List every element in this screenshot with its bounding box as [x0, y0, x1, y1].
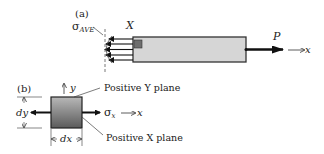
sigma-ave-leader [93, 27, 103, 35]
positive-x-plane-label: Positive X plane [106, 132, 183, 143]
bar-member [133, 37, 246, 62]
dx-label: dx [60, 133, 72, 144]
positive-y-plane-leader [74, 88, 100, 97]
y-axis-label: y [69, 82, 76, 93]
figure-a-label: (a) [75, 8, 89, 19]
sigma-x-label: σx [104, 106, 116, 120]
element-x-label: X [125, 19, 135, 32]
stress-element-x [134, 40, 142, 48]
figure-b: (b) y Positive Y plane Positive X plane … [16, 82, 183, 146]
positive-x-plane-leader [82, 117, 103, 135]
x-axis-label-b: x [137, 107, 143, 118]
x-axis-label-a: x [305, 44, 311, 55]
sigma-ave-symbol: σAVE [72, 20, 94, 34]
average-stress-arrows [105, 39, 133, 60]
figure-b-label: (b) [17, 83, 31, 94]
figure-a: (a) σAVE X P x [72, 8, 311, 72]
dy-label: dy [16, 107, 28, 118]
force-p-label: P [272, 30, 281, 43]
stress-diagram: (a) σAVE X P x (b) y [0, 0, 324, 154]
stress-element-box [51, 97, 82, 128]
positive-y-plane-label: Positive Y plane [104, 82, 181, 93]
